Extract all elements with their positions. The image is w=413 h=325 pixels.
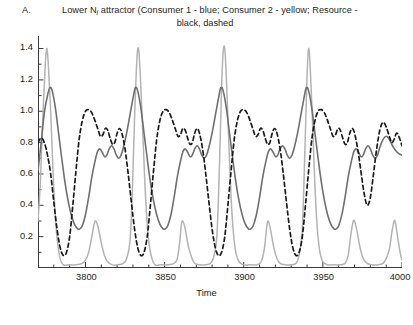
- ytick-label-0-2: 0.2: [3, 231, 33, 241]
- figure-panel-a: A. Lower Ni attractor (Consumer 1 - blue…: [0, 0, 413, 325]
- ytick-label-0-4: 0.4: [3, 199, 33, 209]
- title-text-pre: Lower N: [62, 5, 97, 15]
- series-line-consumer-2: [38, 46, 402, 265]
- xtick-label-4000: 4000: [380, 272, 413, 282]
- xtick-label-3900: 3900: [225, 272, 265, 282]
- ytick-label-1-0: 1.0: [3, 105, 33, 115]
- xtick-label-3800: 3800: [66, 272, 106, 282]
- ytick-label-0-6: 0.6: [3, 168, 33, 178]
- xtick-label-3950: 3950: [304, 272, 344, 282]
- ytick-label-1-2: 1.2: [3, 74, 33, 84]
- ytick-label-1-4: 1.4: [3, 42, 33, 52]
- figure-title-line-2: black, dashed: [62, 17, 348, 30]
- xtick-label-3850: 3850: [146, 272, 186, 282]
- x-axis-title: Time: [0, 288, 413, 298]
- panel-letter: A.: [22, 4, 31, 17]
- title-text-post: attractor (Consumer 1 - blue; Consumer 2…: [98, 5, 357, 15]
- chart-svg: [38, 36, 402, 268]
- data-series-group: [38, 46, 402, 265]
- ytick-label-0-8: 0.8: [3, 137, 33, 147]
- plot-area: [38, 36, 402, 268]
